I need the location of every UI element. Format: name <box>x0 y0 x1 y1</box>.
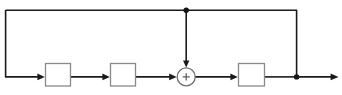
wire-output <box>297 74 339 81</box>
block-1[interactable] <box>46 64 71 87</box>
wire-sum-to-block3 <box>195 74 238 81</box>
wire-block1-to-block2 <box>71 74 110 81</box>
block-diagram-canvas <box>0 0 342 95</box>
arrow-output <box>331 74 339 81</box>
block-3[interactable] <box>239 64 265 87</box>
node-top-tap-dot <box>184 8 189 13</box>
arrow-into-block-3 <box>230 74 237 81</box>
inner-tap-wire <box>183 10 189 68</box>
block-diagram-svg <box>0 0 342 95</box>
summing-junction[interactable] <box>177 68 195 86</box>
block-2-rect[interactable] <box>111 64 136 87</box>
block-2[interactable] <box>111 64 136 87</box>
arrow-into-sum-top <box>183 60 189 67</box>
block-3-rect[interactable] <box>239 64 265 87</box>
arrow-into-block-2 <box>102 74 109 81</box>
arrow-into-block-1 <box>37 74 44 81</box>
arrow-into-sum-left <box>169 74 176 81</box>
block-1-rect[interactable] <box>46 64 71 87</box>
wire-block2-to-sum <box>136 74 177 81</box>
